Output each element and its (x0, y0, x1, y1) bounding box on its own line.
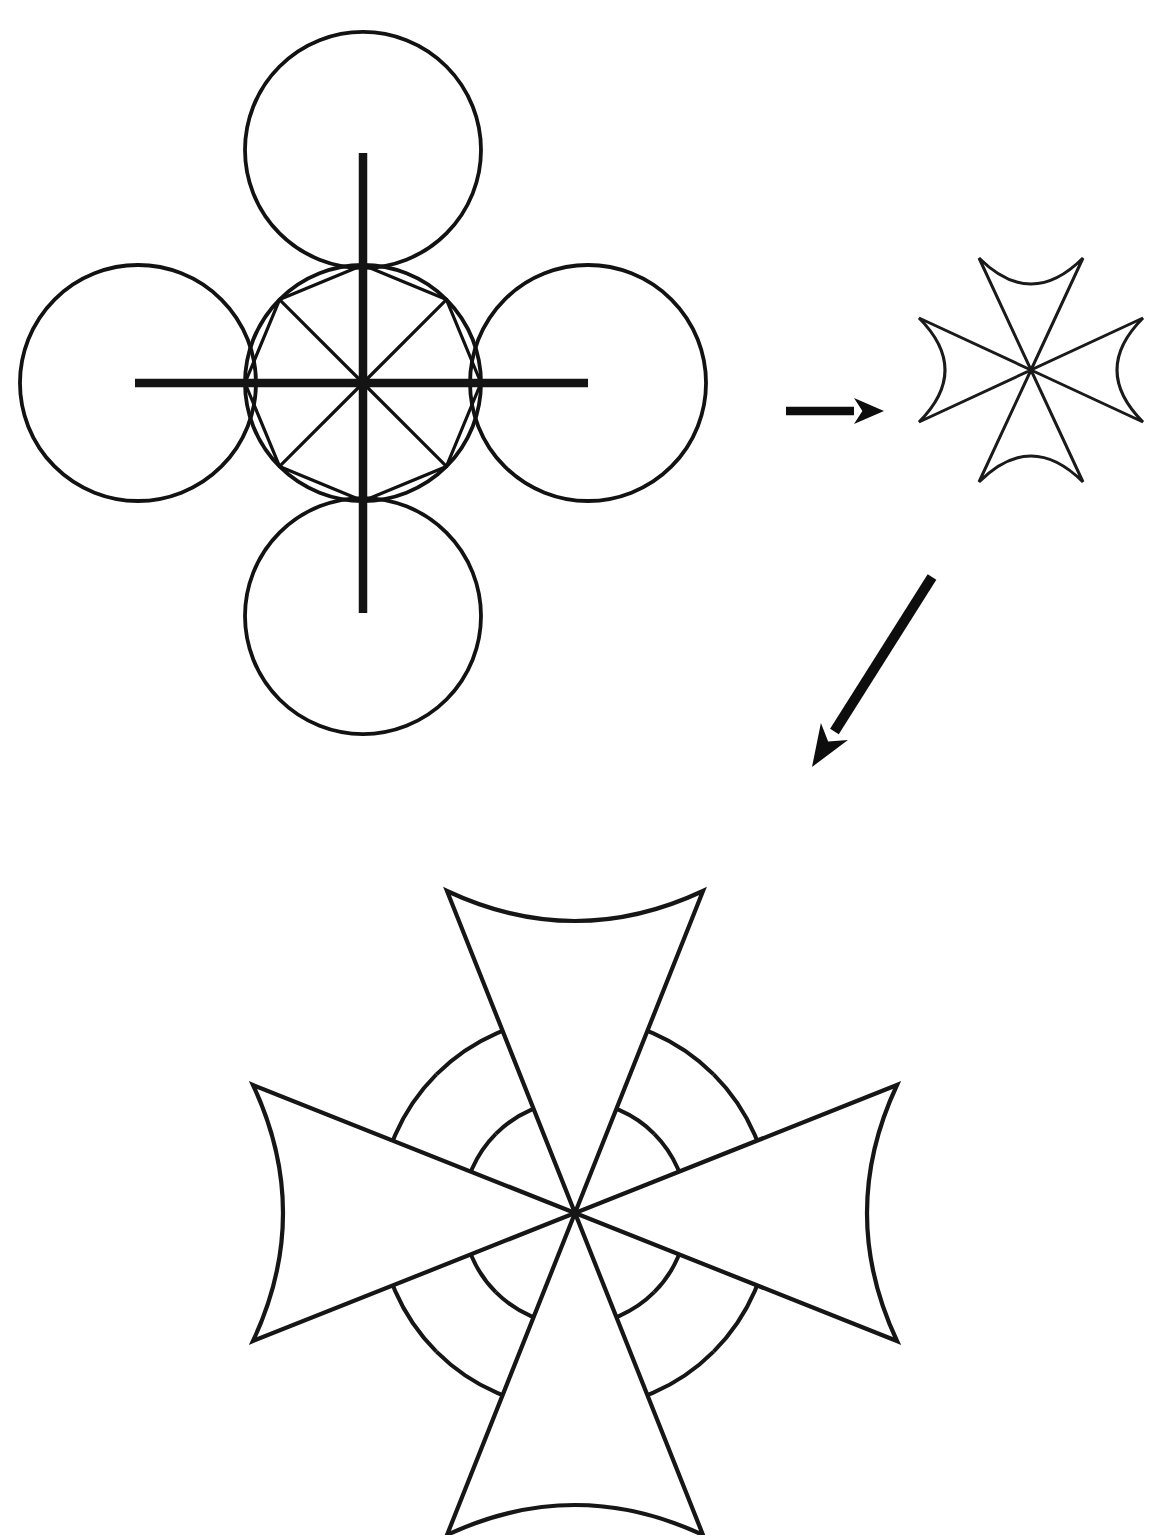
geometric-construction-figure (0, 0, 1160, 1535)
arrow-shaft-horizontal (786, 407, 854, 415)
